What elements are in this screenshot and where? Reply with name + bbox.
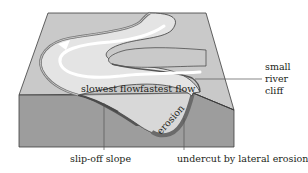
label-slip-off-slope: slip-off slope: [70, 153, 131, 164]
label-undercut: undercut by lateral erosion: [177, 153, 308, 164]
meander-spur: [108, 48, 206, 68]
label-small: small: [265, 61, 291, 72]
meander-block-diagram: slowest flow fastest flow small river cl…: [0, 0, 308, 173]
label-river: river: [265, 73, 289, 84]
label-cliff: cliff: [265, 85, 284, 96]
label-fastest-flow: fastest flow: [140, 83, 195, 94]
label-slowest-flow: slowest flow: [81, 83, 140, 94]
